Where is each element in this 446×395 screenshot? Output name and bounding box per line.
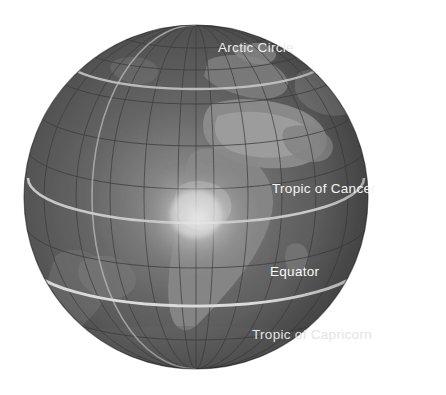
surface-texture — [24, 25, 368, 369]
globe-graphic[interactable] — [0, 0, 446, 395]
globe-scene: Arctic Circle Tropic of Cancer Equator T… — [0, 0, 446, 395]
